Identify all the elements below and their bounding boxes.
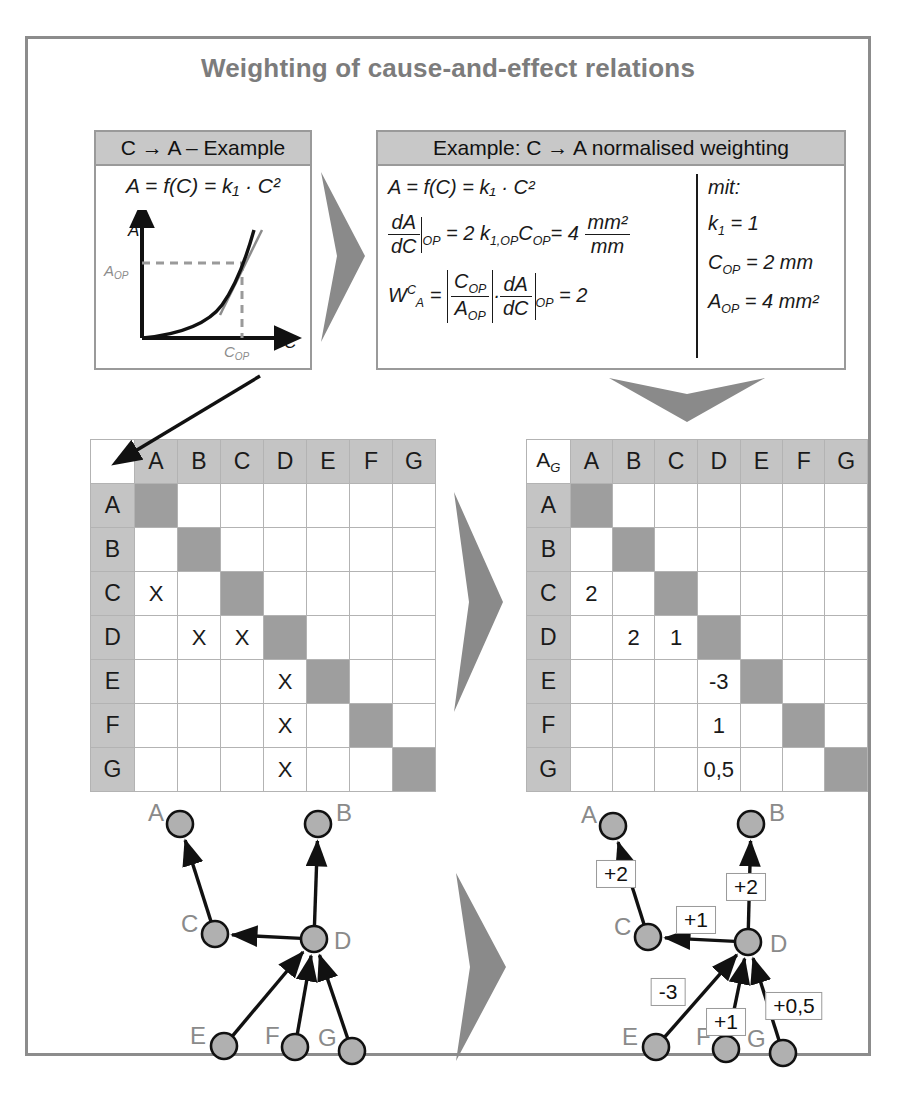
matrix-cell[interactable] xyxy=(307,660,350,704)
matrix-cell[interactable] xyxy=(135,616,178,660)
matrix-cell[interactable] xyxy=(264,484,307,528)
matrix-cell[interactable] xyxy=(613,484,655,528)
matrix-cell[interactable] xyxy=(570,616,612,660)
graph-node-G[interactable] xyxy=(770,1040,796,1066)
matrix-cell[interactable] xyxy=(393,484,436,528)
matrix-cell[interactable] xyxy=(740,528,782,572)
matrix-cell[interactable] xyxy=(307,572,350,616)
matrix-cell[interactable] xyxy=(783,660,825,704)
matrix-cell[interactable] xyxy=(178,660,221,704)
matrix-cell[interactable] xyxy=(135,704,178,748)
matrix-cell[interactable] xyxy=(350,528,393,572)
graph-node-C[interactable] xyxy=(635,924,661,950)
matrix-cell[interactable] xyxy=(740,572,782,616)
matrix-cell[interactable] xyxy=(350,660,393,704)
matrix-cell[interactable]: 1 xyxy=(655,616,697,660)
matrix-cell[interactable] xyxy=(655,660,697,704)
matrix-cell[interactable]: X xyxy=(264,660,307,704)
matrix-cell[interactable]: 2 xyxy=(613,616,655,660)
matrix-cell[interactable] xyxy=(350,484,393,528)
matrix-cell[interactable] xyxy=(697,572,740,616)
graph-node-A[interactable] xyxy=(600,813,626,839)
matrix-cell[interactable] xyxy=(264,616,307,660)
matrix-cell[interactable] xyxy=(221,528,264,572)
matrix-cell[interactable] xyxy=(264,528,307,572)
graph-node-E[interactable] xyxy=(643,1034,669,1060)
matrix-cell[interactable] xyxy=(697,616,740,660)
matrix-cell[interactable] xyxy=(655,484,697,528)
matrix-cell[interactable]: X xyxy=(221,616,264,660)
graph-node-C[interactable] xyxy=(202,921,228,947)
matrix-cell[interactable] xyxy=(178,572,221,616)
matrix-cell[interactable] xyxy=(740,484,782,528)
graph-node-F[interactable] xyxy=(282,1034,308,1060)
graph-edge-weight-C-A[interactable]: +2 xyxy=(596,860,636,888)
matrix-cell[interactable]: -3 xyxy=(697,660,740,704)
matrix-cell[interactable] xyxy=(570,660,612,704)
matrix-cell[interactable] xyxy=(783,704,825,748)
matrix-cell[interactable] xyxy=(135,660,178,704)
graph-node-D[interactable] xyxy=(735,929,761,955)
matrix-cell[interactable] xyxy=(825,528,868,572)
matrix-cell[interactable] xyxy=(740,616,782,660)
graph-node-D[interactable] xyxy=(301,926,327,952)
graph-node-F[interactable] xyxy=(713,1036,739,1062)
matrix-cell[interactable] xyxy=(613,704,655,748)
matrix-cell[interactable] xyxy=(221,704,264,748)
matrix-cell[interactable] xyxy=(825,660,868,704)
graph-edge-weight-D-B[interactable]: +2 xyxy=(726,873,766,901)
matrix-cell[interactable] xyxy=(783,572,825,616)
graph-edge-weight-E-D[interactable]: -3 xyxy=(651,978,686,1006)
matrix-cell[interactable] xyxy=(350,616,393,660)
matrix-cell[interactable] xyxy=(393,704,436,748)
graph-node-G[interactable] xyxy=(339,1038,365,1064)
matrix-cell[interactable] xyxy=(307,528,350,572)
graph-edge-weight-F-D[interactable]: +1 xyxy=(706,1008,746,1036)
matrix-cell[interactable] xyxy=(221,484,264,528)
matrix-cell[interactable] xyxy=(825,572,868,616)
graph-node-B[interactable] xyxy=(738,811,764,837)
matrix-cell[interactable] xyxy=(655,528,697,572)
matrix-cell[interactable] xyxy=(655,704,697,748)
matrix-cell[interactable] xyxy=(307,704,350,748)
matrix-cell[interactable] xyxy=(783,528,825,572)
matrix-cell[interactable] xyxy=(307,616,350,660)
matrix-cell[interactable] xyxy=(825,704,868,748)
matrix-cell[interactable] xyxy=(221,660,264,704)
matrix-cell[interactable] xyxy=(825,484,868,528)
matrix-cell[interactable] xyxy=(350,572,393,616)
matrix-cell[interactable] xyxy=(135,484,178,528)
matrix-cell[interactable] xyxy=(783,484,825,528)
matrix-cell[interactable] xyxy=(697,484,740,528)
matrix-cell[interactable]: 1 xyxy=(697,704,740,748)
matrix-cell[interactable] xyxy=(307,484,350,528)
matrix-cell[interactable] xyxy=(570,704,612,748)
matrix-cell[interactable] xyxy=(135,528,178,572)
matrix-cell[interactable] xyxy=(393,528,436,572)
matrix-cell[interactable] xyxy=(178,528,221,572)
graph-node-A[interactable] xyxy=(167,811,193,837)
graph-edge-weight-G-D[interactable]: +0,5 xyxy=(765,992,822,1020)
matrix-cell[interactable] xyxy=(697,528,740,572)
matrix-cell[interactable]: X xyxy=(264,704,307,748)
matrix-cell[interactable] xyxy=(570,528,612,572)
graph-node-B[interactable] xyxy=(305,811,331,837)
graph-node-E[interactable] xyxy=(211,1033,237,1059)
matrix-cell[interactable] xyxy=(825,616,868,660)
matrix-cell[interactable] xyxy=(221,572,264,616)
matrix-cell[interactable]: X xyxy=(135,572,178,616)
matrix-cell[interactable]: 2 xyxy=(570,572,612,616)
matrix-cell[interactable] xyxy=(613,528,655,572)
graph-edge-weight-D-C[interactable]: +1 xyxy=(676,906,716,934)
matrix-cell[interactable] xyxy=(783,616,825,660)
matrix-cell[interactable] xyxy=(655,572,697,616)
matrix-cell[interactable] xyxy=(613,572,655,616)
matrix-cell[interactable] xyxy=(178,484,221,528)
matrix-cell[interactable] xyxy=(393,572,436,616)
matrix-cell[interactable] xyxy=(740,660,782,704)
matrix-cell[interactable] xyxy=(740,704,782,748)
matrix-cell[interactable] xyxy=(350,704,393,748)
matrix-cell[interactable] xyxy=(570,484,612,528)
matrix-cell[interactable] xyxy=(393,660,436,704)
matrix-cell[interactable]: X xyxy=(178,616,221,660)
